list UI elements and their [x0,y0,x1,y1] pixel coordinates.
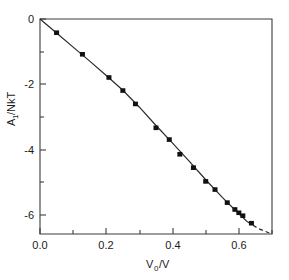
y-axis-title-tail: /NkT [5,92,17,116]
data-point [212,187,217,192]
x-tick-label-2: 0.4 [165,239,180,251]
x-tick-label-0: 0.0 [32,239,47,251]
y-tick-label-1: -2 [24,78,34,90]
y-tick-label-0: 0 [28,13,34,25]
x-tick-label-3: 0.6 [231,239,246,251]
chart-figure: 0.0 0.2 0.4 0.6 0 -2 -4 -6 V 0 /V A 1 /N… [0,0,289,280]
data-point [106,75,111,80]
data-series-layer [40,19,272,234]
data-point [120,88,125,93]
y-tick-label-3: -6 [24,209,34,221]
data-point [133,102,138,107]
x-tick-label-1: 0.2 [98,239,113,251]
x-axis-title-tail: /V [159,258,170,270]
y-tick-label-2: -4 [24,144,34,156]
y-axis-title: A 1 /NkT [5,92,20,127]
data-point [167,137,172,142]
data-point [54,30,59,35]
data-point [225,200,230,205]
x-axis-title-main: V [146,258,154,270]
data-point [240,213,245,218]
x-axis-title: V 0 /V [146,258,170,273]
data-point [177,152,182,157]
data-point [191,165,196,170]
data-point [80,52,85,57]
data-point [154,126,159,131]
data-point [249,221,254,226]
chart-plot-area: 0.0 0.2 0.4 0.6 0 -2 -4 -6 V 0 /V A 1 /N… [0,0,289,280]
data-point [203,179,208,184]
